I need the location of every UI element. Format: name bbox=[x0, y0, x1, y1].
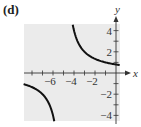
x-tick-label: −6 bbox=[44, 75, 56, 87]
graph: −6−4−242−2−4xy bbox=[0, 0, 141, 127]
y-axis-label: y bbox=[114, 3, 120, 15]
y-tick-label: −2 bbox=[100, 88, 112, 100]
x-tick-label: −4 bbox=[65, 75, 77, 87]
y-tick-label: 4 bbox=[107, 25, 113, 37]
y-axis-arrow-icon bbox=[114, 16, 119, 22]
x-axis-arrow-icon bbox=[125, 71, 131, 76]
y-tick-label: −4 bbox=[100, 109, 112, 121]
x-axis-label: x bbox=[132, 67, 138, 79]
y-tick-label: 2 bbox=[107, 46, 113, 58]
x-tick-label: −2 bbox=[86, 75, 98, 87]
